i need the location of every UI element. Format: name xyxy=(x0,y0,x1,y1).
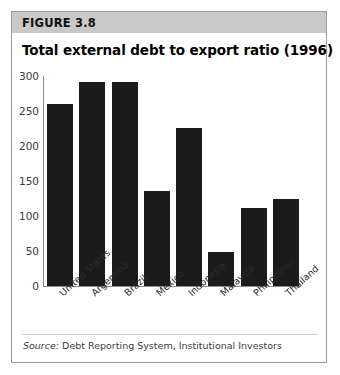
bar xyxy=(47,104,73,286)
y-tick-label: 0 xyxy=(9,280,39,292)
y-tick-label: 200 xyxy=(9,140,39,152)
source-note: Source: Debt Reporting System, Instituti… xyxy=(23,340,282,351)
bar xyxy=(112,82,138,286)
source-text: Debt Reporting System, Institutional Inv… xyxy=(62,340,282,351)
y-tick-label: 150 xyxy=(9,175,39,187)
y-tick-label: 300 xyxy=(9,70,39,82)
y-axis-line xyxy=(43,76,44,287)
y-tick-label: 250 xyxy=(9,105,39,117)
bar xyxy=(144,191,170,286)
source-divider xyxy=(22,334,318,335)
y-tick-label: 50 xyxy=(9,245,39,257)
bar xyxy=(176,128,202,286)
figure-card: FIGURE 3.8 Total external debt to export… xyxy=(11,11,327,363)
source-prefix: Source: xyxy=(23,340,59,351)
bar-chart-plot: 050100150200250300 United StatesArgentin… xyxy=(12,12,328,364)
y-tick-label: 100 xyxy=(9,210,39,222)
